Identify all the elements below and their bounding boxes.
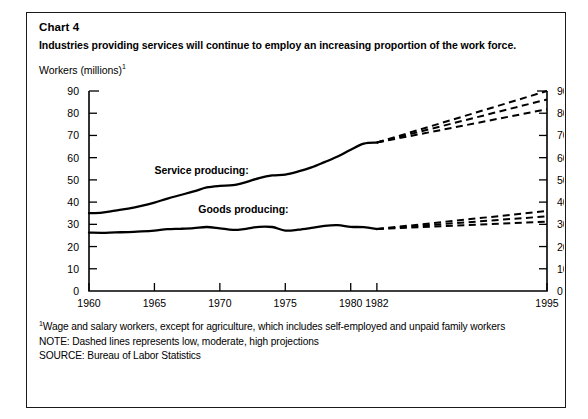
series-annotations-group: Service producing:Goods producing: [154,164,288,215]
y-axis-tick-label-right: 60 [557,152,564,164]
projection-line [377,91,547,143]
y-axis-tick-label-right: 10 [557,263,564,275]
chart-headline: Industries providing services will conti… [39,39,555,52]
footnotes-block: 1Wage and salary workers, except for agr… [39,317,559,364]
y-axis-tick-label-right: 50 [557,174,564,186]
x-axis-tick-label: 1995 [535,297,559,309]
x-axis-tick-label: 1965 [143,297,167,309]
y-axis-tick-label-left: 20 [67,241,79,253]
y-axis-tick-label-left: 70 [67,129,79,141]
y-axis-title-footnote-marker: 1 [122,63,126,70]
series-line [89,225,377,233]
x-axis-tick-label: 1970 [208,297,232,309]
y-axis-tick-label-left: 30 [67,218,79,230]
y-axis-tick-label-left: 10 [67,263,79,275]
y-axis-tick-label-left: 40 [67,196,79,208]
chart-number-label: Chart 4 [39,21,79,33]
x-axis-tick-label: 1975 [274,297,298,309]
footnote-source: SOURCE: Bureau of Labor Statistics [39,349,559,364]
y-axis-tick-label-right: 0 [557,285,563,297]
y-axis-tick-label-right: 30 [557,218,564,230]
y-axis-title: Workers (millions)1 [39,63,126,76]
series-annotation-label: Service producing: [154,164,248,176]
chart-page: Chart 4 Industries providing services wi… [0,0,588,419]
tick-labels-group: 0010102020303040405050606070708080909019… [67,85,564,309]
y-axis-tick-label-right: 90 [557,85,564,97]
axes-group [89,91,547,291]
x-axis-tick-label: 1960 [77,297,101,309]
projection-line [377,99,547,142]
y-axis-tick-label-left: 80 [67,107,79,119]
chart-card: Chart 4 Industries providing services wi… [26,12,566,408]
y-axis-tick-label-left: 50 [67,174,79,186]
plot-area: 0010102020303040405050606070708080909019… [27,75,564,313]
footnote-wage-and-salary: 1Wage and salary workers, except for agr… [39,317,559,335]
series-annotation-label: Goods producing: [198,203,288,215]
series-group [89,91,547,233]
y-axis-tick-label-left: 90 [67,85,79,97]
y-axis-tick-label-right: 40 [557,196,564,208]
plot-frame [89,91,547,291]
y-axis-tick-label-right: 80 [557,107,564,119]
projection-line [377,109,547,142]
x-axis-tick-label: 1980 [339,297,363,309]
footnote-note: NOTE: Dashed lines represents low, moder… [39,335,559,350]
y-axis-title-text: Workers (millions) [39,64,122,76]
line-chart-svg: 0010102020303040405050606070708080909019… [27,75,564,313]
x-axis-tick-label: 1982 [365,297,389,309]
y-axis-tick-label-left: 60 [67,152,79,164]
footnote-wage-text: Wage and salary workers, except for agri… [43,321,505,332]
y-axis-tick-label-right: 70 [557,129,564,141]
y-axis-tick-label-left: 0 [73,285,79,297]
y-axis-tick-label-right: 20 [557,241,564,253]
